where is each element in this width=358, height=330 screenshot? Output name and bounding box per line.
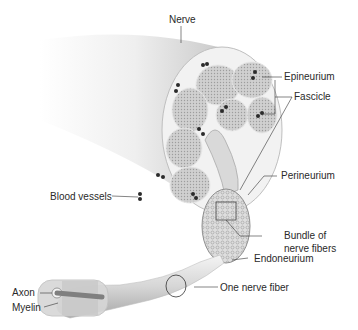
label-nerve: Nerve bbox=[169, 14, 196, 26]
nerve-illustration bbox=[0, 0, 358, 330]
label-myelin: Myelin bbox=[12, 302, 41, 314]
label-epineurium: Epineurium bbox=[284, 71, 335, 83]
label-bundle-line1: Bundle of bbox=[284, 230, 326, 242]
fascicle-cross-section bbox=[202, 189, 250, 263]
label-perineurium: Perineurium bbox=[281, 170, 335, 182]
label-axon: Axon bbox=[12, 287, 35, 299]
label-blood-vessels: Blood vessels bbox=[50, 191, 112, 203]
label-fascicle: Fascicle bbox=[294, 91, 331, 103]
label-one-nerve-fiber: One nerve fiber bbox=[220, 282, 289, 294]
label-endoneurium: Endoneurium bbox=[254, 253, 313, 265]
